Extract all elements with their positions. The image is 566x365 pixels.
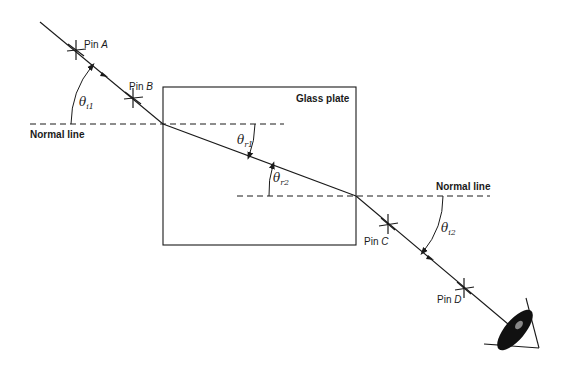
refracted-ray [163,124,356,196]
pin-d-label: Pin D [437,295,461,305]
pin-b-label: Pin B [129,82,153,92]
normal-line-label-2: Normal line [436,182,490,192]
normal-line-label-1: Normal line [30,130,84,140]
eye-icon [484,298,539,356]
angle-label-r1: θr1 [237,134,253,149]
angle-arc-i2 [423,196,443,252]
emergent-ray [356,196,508,324]
angle-label-r2: θr2 [273,172,289,187]
glass-plate-label: Glass plate [296,94,349,104]
glass-plate [163,87,356,245]
pin-c-marker [379,214,398,234]
angle-label-i2: θi2 [441,222,456,237]
pin-c-label: Pin C [364,237,388,247]
refraction-diagram: Pin A Pin B Pin C Pin D Glass plate Norm… [0,0,566,365]
angle-label-i1: θi1 [79,96,94,111]
pin-a-label: Pin A [84,40,108,50]
